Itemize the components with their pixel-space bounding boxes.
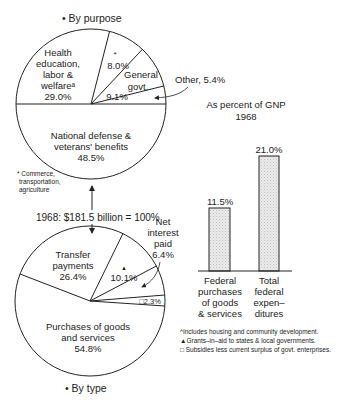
commerce-marker: *	[113, 50, 116, 59]
svg-text:purchases: purchases	[198, 286, 242, 297]
bar-value-label: 11.5%	[207, 196, 234, 207]
commerce-footnote: * Commerce,	[17, 170, 55, 177]
slice-label-general: General	[124, 69, 158, 80]
svg-text:26.4%: 26.4%	[60, 271, 87, 282]
slice-label-transfer: Transfer	[55, 249, 90, 260]
pie-title-by-type: • By type	[65, 382, 107, 394]
svg-text:transportation,: transportation,	[19, 178, 61, 186]
svg-text:payments: payments	[52, 260, 93, 271]
svg-text:agriculture: agriculture	[19, 186, 50, 194]
footnote-c: □ Subsidies less current surplus of govt…	[180, 346, 331, 354]
footnote-a: ᴬIncludes housing and community developm…	[179, 328, 319, 336]
slice-label-other: Other, 5.4%	[175, 74, 226, 85]
svg-text:interest: interest	[147, 227, 179, 238]
svg-text:labor &: labor &	[43, 69, 74, 80]
bar-federal-purchases	[209, 208, 230, 271]
bar-total-expenditures	[259, 156, 279, 271]
svg-text:govt.: govt.	[128, 81, 149, 92]
svg-text:federal: federal	[254, 286, 283, 297]
bar-value-label: 21.0%	[256, 144, 283, 155]
svg-text:of goods: of goods	[202, 297, 239, 308]
interest-callout-arrow	[142, 262, 160, 287]
svg-text:and services: and services	[61, 332, 115, 343]
footnote-b: ▲Grants–in–aid to states & local governm…	[180, 337, 316, 345]
slice-label-subsidies: □2.3%	[139, 297, 161, 306]
total-label: 1968: $181.5 billion = 100%	[36, 212, 160, 223]
slice-label-interest: Net	[156, 216, 171, 227]
slice-value-general: 9.1%	[106, 91, 128, 102]
bar-category-label: Total	[259, 275, 279, 286]
slice-label-defense: National defense &	[51, 130, 132, 141]
bar-category-label: Federal	[204, 275, 236, 286]
footnotes: ᴬIncludes housing and community developm…	[179, 328, 331, 354]
other-callout-arrow	[155, 87, 188, 98]
slice-label-purchases: Purchases of goods	[46, 321, 130, 332]
svg-text:1968: 1968	[235, 111, 256, 122]
svg-text:paid: paid	[154, 238, 172, 249]
svg-text:welfareᵃ: welfareᵃ	[40, 80, 76, 91]
svg-text:54.8%: 54.8%	[75, 343, 102, 354]
slice-divider	[90, 234, 123, 301]
pie-by-purpose: • By purpose Health education, labor & w…	[16, 12, 226, 194]
figure: • By purpose Health education, labor & w…	[0, 0, 351, 403]
svg-text:veterans' benefits: veterans' benefits	[54, 141, 128, 152]
svg-text:ditures: ditures	[255, 308, 284, 319]
bar-chart-gnp: As percent of GNP 1968 11.5% 21.0% Feder…	[198, 99, 292, 319]
svg-text:29.0%: 29.0%	[45, 91, 72, 102]
pie-by-type: Transfer payments 26.4% ▲ 10.1% Net inte…	[15, 216, 179, 394]
slice-label-health: Health	[44, 47, 71, 58]
grants-marker: ▲	[121, 265, 127, 271]
bar-chart-title: As percent of GNP	[206, 99, 285, 110]
svg-text:education,: education,	[36, 58, 80, 69]
svg-text:& services: & services	[198, 308, 242, 319]
slice-label-grants: 10.1%	[111, 272, 138, 283]
pie-title-by-purpose: • By purpose	[62, 12, 122, 24]
svg-text:6.4%: 6.4%	[152, 249, 174, 260]
svg-text:48.5%: 48.5%	[78, 152, 105, 163]
svg-text:expen–: expen–	[253, 297, 285, 308]
